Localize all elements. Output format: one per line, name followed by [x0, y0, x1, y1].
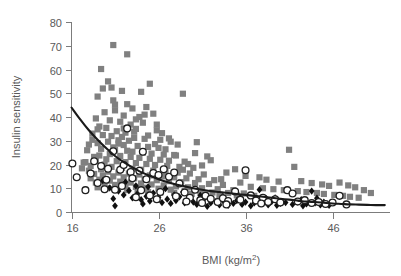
data-point-open-circle [101, 186, 108, 193]
y-axis-title: Insulin sensitivity [10, 75, 22, 158]
data-point-open-circle [98, 163, 105, 170]
data-point-open-circle [91, 158, 98, 165]
data-point-open-circle [237, 196, 244, 203]
y-tick-labels: 01020304050607080 [50, 17, 62, 219]
data-point-square [185, 161, 191, 167]
data-point-square [166, 135, 172, 141]
data-point-square [276, 179, 282, 185]
data-point-square [326, 183, 332, 189]
data-point-open-circle [171, 169, 178, 176]
data-point-square [108, 84, 114, 90]
data-point-square [180, 167, 186, 173]
data-point-square [145, 132, 151, 138]
data-point-open-circle [183, 198, 190, 205]
data-point-square [143, 104, 149, 110]
data-point-square [270, 186, 276, 192]
data-point-open-circle [160, 166, 167, 173]
y-tick-label: 10 [50, 183, 62, 195]
data-point-square [135, 143, 141, 149]
data-point-square [256, 174, 262, 180]
data-point-square [237, 179, 243, 185]
data-point-open-circle [129, 175, 136, 182]
data-point-open-circle [73, 174, 80, 181]
data-point-open-circle [87, 170, 94, 177]
data-point-square [143, 161, 149, 167]
data-point-square [112, 102, 118, 108]
data-point-square [152, 141, 158, 147]
data-point-open-circle [105, 165, 112, 172]
data-point-square [361, 187, 367, 193]
data-point-square [84, 147, 90, 153]
data-point-square [95, 126, 101, 132]
data-point-open-circle [143, 176, 150, 183]
insulin-sensitivity-bmi-scatter-figure: 01020304050607080 16263646 Insulin sensi… [0, 0, 401, 276]
data-point-square [199, 162, 205, 168]
data-point-square [100, 85, 106, 91]
data-point-square [347, 194, 353, 200]
data-point-square [303, 189, 309, 195]
data-point-square [345, 182, 351, 188]
data-point-square [119, 88, 125, 94]
data-point-open-circle [94, 180, 101, 187]
data-point-square [336, 179, 342, 185]
data-point-square [291, 164, 297, 170]
data-point-square [298, 178, 304, 184]
data-point-square [133, 160, 139, 166]
data-point-open-circle [69, 160, 76, 167]
x-tick-label: 16 [66, 222, 78, 234]
data-point-square [98, 66, 104, 72]
data-point-square [81, 160, 87, 166]
data-point-square [112, 107, 118, 113]
data-point-square [129, 105, 135, 111]
data-point-open-circle [138, 187, 145, 194]
y-tick-label: 70 [50, 41, 62, 53]
data-point-open-circle [336, 192, 343, 199]
data-point-square [142, 112, 148, 118]
data-point-open-circle [207, 195, 214, 202]
data-point-open-circle [133, 194, 140, 201]
data-point-square [95, 93, 101, 99]
scatter-plot-canvas: 01020304050607080 16263646 Insulin sensi… [0, 0, 401, 276]
data-point-square [105, 78, 111, 84]
data-point-square [103, 125, 109, 131]
data-point-open-circle [173, 193, 180, 200]
x-axis-title-close: ) [256, 254, 260, 266]
data-point-square [171, 152, 177, 158]
data-point-square [218, 176, 224, 182]
data-point-square [152, 162, 158, 168]
y-tick-label: 20 [50, 160, 62, 172]
data-point-open-circle [146, 192, 153, 199]
data-point-square [138, 89, 144, 95]
data-point-square [248, 184, 254, 190]
data-point-square [321, 191, 327, 197]
y-tick-label: 80 [50, 17, 62, 29]
y-axis: 01020304050607080 [50, 17, 72, 219]
data-point-square [232, 166, 238, 172]
data-point-square [162, 146, 168, 152]
data-point-square [175, 141, 181, 147]
y-tick-label: 30 [50, 136, 62, 148]
x-tick-label: 36 [240, 222, 252, 234]
data-point-open-circle [119, 182, 126, 189]
data-point-square [208, 157, 214, 163]
x-axis-title: BMI (kg/m2) [202, 253, 260, 266]
data-point-open-circle [153, 196, 160, 203]
data-point-square [93, 115, 99, 121]
y-tick-label: 40 [50, 112, 62, 124]
data-point-open-circle [199, 200, 206, 207]
data-point-open-circle [258, 200, 265, 207]
data-point-square [368, 190, 374, 196]
y-tick-label: 0 [56, 207, 62, 219]
data-point-open-circle [242, 167, 249, 174]
data-point-square [192, 150, 198, 156]
y-tick-label: 60 [50, 65, 62, 77]
data-point-open-circle [112, 186, 119, 193]
y-tick-label: 50 [50, 88, 62, 100]
data-point-square [101, 109, 107, 115]
data-point-square [192, 180, 198, 186]
data-point-square [356, 195, 362, 201]
data-point-open-circle [124, 125, 131, 132]
data-point-square [309, 180, 315, 186]
data-point-square [147, 81, 153, 87]
data-point-square [194, 139, 200, 145]
